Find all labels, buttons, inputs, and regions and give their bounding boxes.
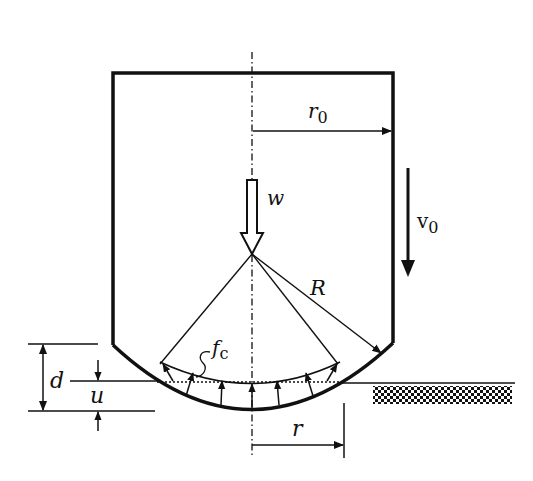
pressure-envelope [160, 362, 340, 384]
velocity-arrow-v0 [401, 168, 415, 277]
label-d: d [50, 368, 64, 393]
weight-arrow-w [241, 180, 263, 254]
label-r: r [292, 416, 304, 441]
diagram-canvas: r0 w v0 R fc d [0, 0, 533, 481]
fc-leader [196, 352, 210, 377]
contact-pressure-arrows [163, 364, 337, 409]
label-r0: r0 [308, 99, 328, 127]
label-u: u [90, 383, 104, 408]
ground-hatch [373, 386, 512, 404]
label-fc: fc [210, 336, 228, 363]
label-w: w [267, 186, 284, 210]
label-v0: v0 [416, 209, 439, 237]
radius-R-arrow [252, 254, 381, 353]
apex-rays [160, 254, 338, 364]
label-R: R [309, 276, 326, 300]
